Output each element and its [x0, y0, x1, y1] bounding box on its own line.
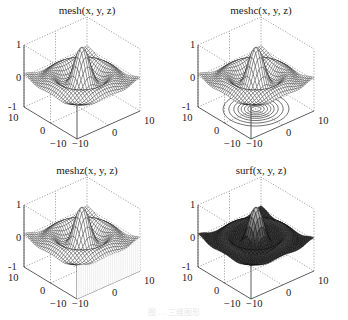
z-tick-minus-1: -1	[182, 262, 191, 273]
plot-mesh: mesh(x, y, z) 1 0 -1 10 0 −10 −10 0 10	[0, 0, 174, 150]
z-tick-1: 1	[16, 40, 21, 51]
y-tick-10: 10	[182, 113, 193, 124]
y-tick-minus-10: −10	[224, 139, 240, 150]
x-tick-10: 10	[318, 116, 329, 127]
mesh-surface-plot	[0, 0, 174, 150]
x-tick-minus-10: −10	[72, 139, 88, 150]
y-tick-10: 10	[8, 273, 19, 284]
z-tick-0: 0	[16, 233, 21, 244]
z-tick-minus-1: -1	[8, 262, 17, 273]
z-tick-0: 0	[190, 233, 195, 244]
surf-surface-plot	[174, 160, 348, 310]
z-tick-1: 1	[16, 200, 21, 211]
x-tick-0: 0	[112, 128, 117, 139]
z-tick-1: 1	[190, 200, 195, 211]
x-tick-10: 10	[318, 276, 329, 287]
y-tick-0: 0	[40, 126, 45, 137]
x-tick-0: 0	[286, 288, 291, 299]
y-tick-0: 0	[214, 126, 219, 137]
y-tick-minus-10: −10	[50, 139, 66, 150]
y-tick-0: 0	[40, 286, 45, 297]
meshz-surface-plot	[0, 160, 174, 310]
x-tick-0: 0	[112, 288, 117, 299]
x-tick-10: 10	[144, 116, 155, 127]
figure-caption: 图 … 三维图形	[0, 306, 348, 317]
x-tick-minus-10: −10	[246, 139, 262, 150]
z-tick-minus-1: -1	[8, 102, 17, 113]
meshc-surface-plot	[174, 0, 348, 150]
z-tick-1: 1	[190, 40, 195, 51]
x-tick-0: 0	[286, 128, 291, 139]
z-tick-0: 0	[190, 73, 195, 84]
y-tick-0: 0	[214, 286, 219, 297]
plot-surf: surf(x, y, z) 1 0 -1 10 0 −10 −10 0 10	[174, 160, 348, 310]
x-tick-10: 10	[144, 276, 155, 287]
z-tick-minus-1: -1	[182, 102, 191, 113]
plot-meshc: meshc(x, y, z) 1 0 -1 10 0 −10 −10 0 10	[174, 0, 348, 150]
y-tick-10: 10	[8, 113, 19, 124]
plot-meshz: meshz(x, y, z) 1 0 -1 10 0 −10 −10 0 10	[0, 160, 174, 310]
z-tick-0: 0	[16, 73, 21, 84]
y-tick-10: 10	[182, 273, 193, 284]
